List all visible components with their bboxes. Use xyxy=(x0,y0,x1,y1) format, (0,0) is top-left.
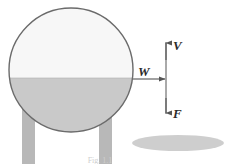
velocity-vector-label: V xyxy=(173,38,183,53)
weight-vector-label: W xyxy=(138,64,151,79)
figure-caption: Fig. 1.1 xyxy=(88,156,113,164)
spherical-tank xyxy=(9,8,133,132)
figure-container: V W F Fig. 1.1 xyxy=(0,0,246,164)
diagram-canvas: V W F Fig. 1.1 xyxy=(0,0,246,164)
ground-shadow-icon xyxy=(132,135,224,151)
vector-group: V W F xyxy=(133,38,183,121)
force-vector-label: F xyxy=(172,106,182,121)
